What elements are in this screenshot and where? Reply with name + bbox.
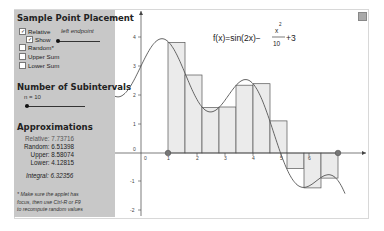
interval-start-point[interactable]	[165, 150, 171, 156]
x-tick-label: 2	[196, 155, 199, 161]
formula-label: f(x)=sin(2x)− x 2 10 +3	[213, 22, 296, 47]
rectangle-8	[287, 153, 304, 168]
graph-canvas[interactable]: 4 3 2 1 0 -1 -2 0 1 2 3 4 5 6 f(x)=sin(2…	[0, 0, 384, 231]
y-tick-label: 4	[133, 34, 136, 40]
y-tick-label: 0	[133, 146, 136, 152]
y-tick-label: -2	[130, 207, 135, 213]
svg-text:x: x	[275, 27, 279, 34]
x-tick-label: 4	[252, 155, 255, 161]
rectangle-6	[253, 84, 270, 153]
rectangle-5	[236, 85, 253, 153]
svg-text:f(x)=sin(2x)−: f(x)=sin(2x)−	[213, 33, 261, 43]
x-tick-label: 6	[308, 155, 311, 161]
y-tick-label: 1	[133, 121, 136, 127]
y-tick-label: 3	[133, 63, 136, 69]
interval-end-point[interactable]	[335, 150, 341, 156]
rectangle-3	[202, 108, 219, 153]
rectangle-2	[185, 75, 202, 153]
y-axis-arrow-icon	[139, 11, 143, 15]
svg-text:2: 2	[279, 22, 282, 27]
settings-icon[interactable]	[358, 12, 367, 21]
svg-text:+3: +3	[286, 33, 296, 43]
riemann-rectangles	[168, 43, 338, 188]
y-tick-label: -1	[130, 178, 135, 184]
x-axis-arrow-icon	[362, 151, 366, 155]
x-tick-label: 0	[144, 155, 147, 161]
svg-text:10: 10	[273, 40, 281, 47]
y-tick-label: 2	[133, 92, 136, 98]
x-tick-label: 3	[224, 155, 227, 161]
rectangle-4	[219, 107, 236, 153]
rectangle-1	[168, 43, 185, 154]
rectangle-9	[304, 153, 321, 188]
